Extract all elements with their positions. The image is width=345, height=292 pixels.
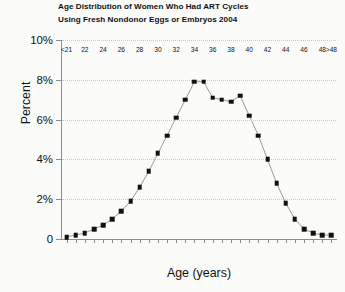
chart-figure: Age Distribution of Women Who Had ART Cy… <box>0 0 345 292</box>
x-axis-tick-label: 34 <box>191 46 198 53</box>
x-axis-tick-label: 28 <box>136 46 143 53</box>
x-axis-tick <box>295 239 296 243</box>
x-axis-tick <box>67 239 68 243</box>
data-point <box>329 233 334 238</box>
data-point <box>110 217 115 222</box>
x-axis-tick <box>277 239 278 243</box>
y-axis-tick <box>56 40 62 41</box>
y-axis-tick <box>56 120 62 121</box>
data-point <box>265 157 270 162</box>
data-point <box>192 79 197 84</box>
y-axis-tick-label: 0 <box>47 233 53 245</box>
x-axis-tick <box>268 239 269 243</box>
x-axis-tick-label: 42 <box>264 46 271 53</box>
x-axis-tick <box>140 239 141 243</box>
x-axis-title: Age (years) <box>62 266 336 280</box>
chart-title: Age Distribution of Women Who Had ART Cy… <box>58 1 298 26</box>
data-point <box>201 79 206 84</box>
x-axis-tick <box>185 239 186 243</box>
data-point <box>128 199 133 204</box>
gridline-y <box>62 120 336 121</box>
x-axis-tick <box>249 239 250 243</box>
x-axis-tick <box>204 239 205 243</box>
y-axis-tick-label: 10% <box>30 34 53 46</box>
data-point <box>83 231 88 236</box>
x-axis-tick <box>167 239 168 243</box>
data-point <box>256 133 261 138</box>
x-axis-tick <box>240 239 241 243</box>
series-line <box>62 40 336 239</box>
x-axis-tick-label: >48 <box>326 46 337 53</box>
x-axis-tick <box>222 239 223 243</box>
x-axis-tick <box>213 239 214 243</box>
y-axis-tick <box>56 239 62 240</box>
data-point <box>64 235 69 240</box>
data-point <box>119 209 124 214</box>
x-axis-tick-label: 44 <box>282 46 289 53</box>
y-axis-tick-label: 4% <box>37 153 53 165</box>
data-point <box>156 151 161 156</box>
x-axis-tick <box>94 239 95 243</box>
data-point <box>311 231 316 236</box>
x-axis-tick <box>149 239 150 243</box>
data-point <box>229 99 234 104</box>
gridline-y <box>62 199 336 200</box>
gridline-y <box>62 80 336 81</box>
x-axis-tick <box>194 239 195 243</box>
x-axis-tick <box>121 239 122 243</box>
x-axis-tick <box>313 239 314 243</box>
x-axis-tick <box>158 239 159 243</box>
data-point <box>137 185 142 190</box>
chart-title-line-1: Age Distribution of Women Who Had ART Cy… <box>58 1 298 14</box>
x-axis-tick-label: 30 <box>154 46 161 53</box>
data-point <box>274 181 279 186</box>
x-axis-tick-label: 40 <box>246 46 253 53</box>
y-axis-title: Percent <box>19 53 33 153</box>
x-axis-tick-label: 38 <box>227 46 234 53</box>
data-point <box>320 233 325 238</box>
x-axis-tick <box>76 239 77 243</box>
x-axis-tick-label: <21 <box>61 46 72 53</box>
data-point <box>238 93 243 98</box>
data-point <box>283 201 288 206</box>
x-axis-tick <box>258 239 259 243</box>
data-point <box>146 169 151 174</box>
data-point <box>302 227 307 232</box>
data-point <box>183 97 188 102</box>
x-axis-tick <box>85 239 86 243</box>
y-axis-tick <box>56 159 62 160</box>
data-point <box>73 233 78 238</box>
x-axis-tick <box>231 239 232 243</box>
x-axis-tick-label: 26 <box>118 46 125 53</box>
x-axis-tick <box>322 239 323 243</box>
data-point <box>101 223 106 228</box>
data-point <box>220 97 225 102</box>
x-axis-tick <box>112 239 113 243</box>
data-point <box>210 95 215 100</box>
chart-title-line-2: Using Fresh Nondonor Eggs or Embryos 200… <box>58 14 298 27</box>
data-point <box>165 133 170 138</box>
y-axis-tick <box>56 80 62 81</box>
gridline-y <box>62 159 336 160</box>
x-axis-tick-label: 22 <box>81 46 88 53</box>
plot-area: 02%4%6%8%10%<212224262830323436384042444… <box>62 40 336 239</box>
gridline-y <box>62 40 336 41</box>
x-axis-tick <box>103 239 104 243</box>
x-axis-tick <box>286 239 287 243</box>
y-axis-tick <box>56 199 62 200</box>
x-axis-tick <box>131 239 132 243</box>
data-point <box>92 227 97 232</box>
data-point <box>293 217 298 222</box>
x-axis-tick <box>304 239 305 243</box>
data-point <box>247 113 252 118</box>
x-axis-tick-label: 24 <box>99 46 106 53</box>
x-axis-tick-label: 36 <box>209 46 216 53</box>
x-axis-tick <box>331 239 332 243</box>
x-axis-tick-label: 46 <box>300 46 307 53</box>
y-axis-tick-label: 2% <box>37 193 53 205</box>
data-point <box>174 115 179 120</box>
x-axis-tick-label: 32 <box>172 46 179 53</box>
x-axis-tick <box>176 239 177 243</box>
y-axis-tick-label: 6% <box>37 114 53 126</box>
y-axis-tick-label: 8% <box>37 74 53 86</box>
